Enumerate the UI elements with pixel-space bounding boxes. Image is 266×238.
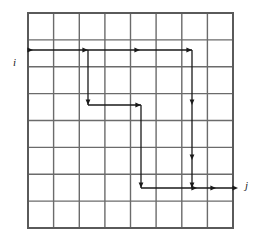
- arrow-row1-b: [82, 48, 88, 53]
- arrow-row7-a: [191, 186, 197, 191]
- grid-traversal-figure: [0, 0, 266, 238]
- arrow-col7-mid2: [190, 154, 195, 160]
- arrow-col5-end: [139, 182, 144, 188]
- arrow-col7-mid1: [190, 99, 195, 105]
- arrow-row1-d: [186, 48, 192, 53]
- arrow-row1-a: [27, 48, 33, 53]
- traversal-path: [28, 50, 236, 188]
- arrow-row4-end: [135, 103, 141, 108]
- arrow-row7-c: [232, 186, 238, 191]
- axis-label-j: j: [245, 180, 248, 191]
- path-arrowheads: [27, 48, 238, 191]
- arrow-row1-c: [134, 48, 140, 53]
- grid: [28, 13, 233, 228]
- axis-label-i: i: [13, 57, 16, 68]
- arrow-col3-end: [86, 99, 91, 105]
- arrow-row7-b: [210, 186, 216, 191]
